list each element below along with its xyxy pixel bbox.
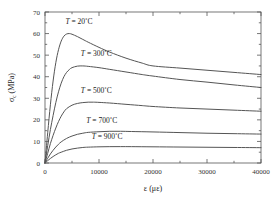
x-axis-tick-label: 10000 [90, 168, 108, 176]
series-label-4: T = 900˚C [92, 132, 123, 141]
series-label-3: T = 700˚C [86, 116, 117, 125]
x-axis-tick-label: 30000 [198, 168, 216, 176]
x-axis-title: ε (με) [144, 184, 163, 193]
y-axis-title-unit: (MPa) [7, 73, 16, 96]
y-axis-tick-label: 50 [33, 52, 41, 60]
series-label-value: = 900˚C [96, 132, 123, 141]
stress-strain-chart-figure: 010000200003000040000010203040506070 T =… [0, 0, 280, 207]
y-axis-tick-label: 40 [33, 73, 41, 81]
y-axis-tick-label: 10 [33, 138, 41, 146]
y-axis-tick-label: 20 [33, 116, 41, 124]
x-axis-tick-label: 0 [43, 168, 47, 176]
series-label-1: T = 300˚C [81, 49, 112, 58]
x-axis-tick-label: 20000 [144, 168, 162, 176]
series-label-value: = 20˚C [70, 17, 93, 26]
stress-strain-chart-svg: 010000200003000040000010203040506070 T =… [0, 0, 280, 207]
y-axis-tick-label: 30 [33, 95, 41, 103]
series-label-value: = 700˚C [90, 116, 117, 125]
y-axis-tick-label: 0 [37, 160, 41, 168]
series-label-value: = 300˚C [85, 49, 112, 58]
series-label-2: T = 500˚C [81, 86, 112, 95]
y-axis-tick-label: 70 [33, 9, 41, 17]
chart-background [0, 0, 280, 207]
x-axis-tick-label: 40000 [252, 168, 270, 176]
y-axis-tick-label: 60 [33, 30, 41, 38]
series-label-0: T = 20˚C [65, 17, 92, 26]
series-label-value: = 500˚C [85, 86, 112, 95]
